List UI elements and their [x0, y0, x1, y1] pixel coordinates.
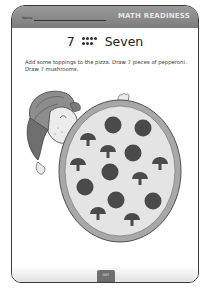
pizza-illustration [0, 0, 212, 293]
